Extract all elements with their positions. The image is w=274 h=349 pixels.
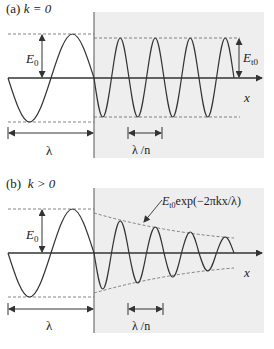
panel-a: E0 Et0 x λ λ /n [8,12,264,158]
incident-amplitude-label-b: E0 [25,227,39,244]
wave-diagram: E0 Et0 x λ λ /n E0 Et0exp(−2 [0,0,274,349]
lambda-label-a: λ [46,143,53,158]
panel-b-title: (b) k > 0 [6,176,55,192]
panel-b-condition: k > 0 [28,176,56,191]
panel-b: E0 Et0exp(−2πkx/λ) x λ λ /n [8,188,264,333]
medium-region-a [94,12,264,158]
panel-a-condition: k = 0 [24,1,52,16]
lambda-n-label-a: λ /n [132,143,150,157]
panel-b-prefix: (b) [6,176,21,191]
panel-a-prefix: (a) [6,1,20,16]
x-axis-label-b: x [243,265,250,280]
lambda-label-b: λ [46,318,53,333]
panel-a-title: (a) k = 0 [6,1,51,17]
medium-region-b [94,188,264,333]
lambda-n-label-b: λ /n [132,319,150,333]
incident-amplitude-label-a: E0 [25,51,39,68]
x-axis-label-a: x [243,90,250,105]
